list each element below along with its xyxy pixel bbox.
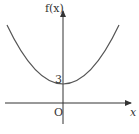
- function-label: f(x): [45, 2, 64, 15]
- origin-label: O: [54, 106, 63, 119]
- function-graph: f(x) 3 O x: [0, 0, 139, 134]
- y-intercept-label: 3: [55, 73, 62, 86]
- x-axis-label: x: [130, 106, 137, 119]
